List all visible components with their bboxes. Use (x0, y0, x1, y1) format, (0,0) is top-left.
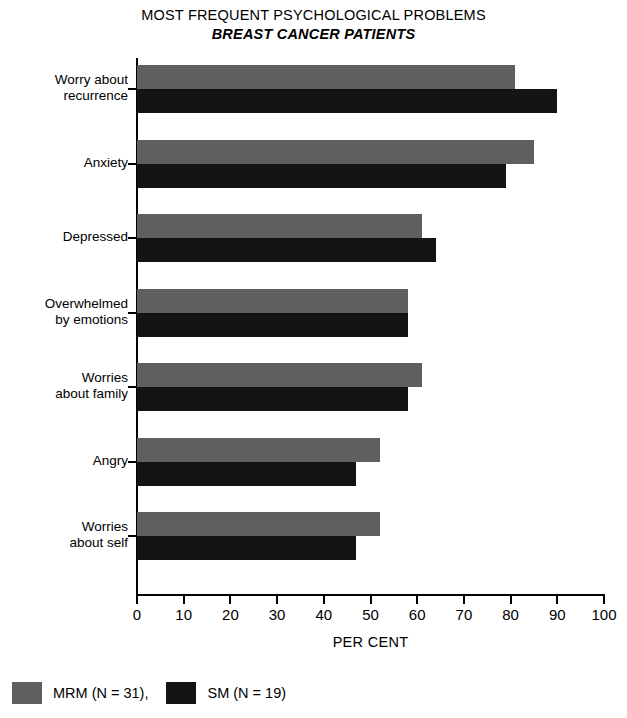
x-tick (136, 595, 138, 604)
y-axis-label: Worry aboutrecurrence (0, 72, 128, 104)
x-tick (603, 595, 605, 604)
bar-group (137, 438, 604, 486)
y-axis-label-line: Worries (0, 519, 128, 535)
y-tick (128, 312, 137, 314)
bar-sm (137, 164, 506, 188)
x-tick (323, 595, 325, 604)
y-axis-label-line: about self (0, 535, 128, 551)
y-tick (128, 461, 137, 463)
x-tick-label: 80 (491, 606, 531, 623)
x-tick (183, 595, 185, 604)
x-tick (463, 595, 465, 604)
chart-subtitle: BREAST CANCER PATIENTS (0, 25, 627, 44)
bar-mrm (137, 214, 422, 238)
legend-swatch-sm (166, 682, 196, 704)
bar-sm (137, 238, 436, 262)
bar-group (137, 65, 604, 113)
x-tick-label: 70 (444, 606, 484, 623)
bar-sm (137, 89, 557, 113)
bar-mrm (137, 512, 380, 536)
x-axis-title: PER CENT (137, 634, 604, 650)
y-axis-label-line: Anxiety (0, 155, 128, 171)
x-tick-label: 50 (351, 606, 391, 623)
x-tick (510, 595, 512, 604)
x-tick-label: 90 (537, 606, 577, 623)
x-tick-label: 30 (257, 606, 297, 623)
x-tick-label: 0 (117, 606, 157, 623)
bar-group (137, 214, 604, 262)
chart-title: MOST FREQUENT PSYCHOLOGICAL PROBLEMS (0, 6, 627, 25)
x-tick (276, 595, 278, 604)
y-tick (128, 386, 137, 388)
y-axis-label: Overwhelmedby emotions (0, 296, 128, 328)
bar-sm (137, 536, 356, 560)
x-tick-label: 100 (584, 606, 624, 623)
x-tick-label: 40 (304, 606, 344, 623)
y-axis-label-line: Worry about (0, 72, 128, 88)
y-axis-label-line: recurrence (0, 88, 128, 104)
bar-mrm (137, 289, 408, 313)
y-tick (128, 237, 137, 239)
bar-mrm (137, 65, 515, 89)
bar-group (137, 512, 604, 560)
y-axis-label: Anxiety (0, 155, 128, 171)
bar-mrm (137, 438, 380, 462)
chart-legend: MRM (N = 31),SM (N = 19) (12, 678, 304, 708)
x-tick (370, 595, 372, 604)
chart-title-block: MOST FREQUENT PSYCHOLOGICAL PROBLEMS BRE… (0, 6, 627, 44)
bar-sm (137, 313, 408, 337)
bar-mrm (137, 363, 422, 387)
y-axis-label-line: about family (0, 386, 128, 402)
legend-item: MRM (N = 31), (12, 682, 166, 704)
x-tick-label: 10 (164, 606, 204, 623)
legend-label: SM (N = 19) (207, 685, 286, 701)
legend-swatch-mrm (12, 682, 42, 704)
y-axis-label-line: Angry (0, 453, 128, 469)
bar-mrm (137, 140, 534, 164)
bar-group (137, 289, 604, 337)
y-tick (128, 163, 137, 165)
y-axis-label-line: by emotions (0, 312, 128, 328)
legend-item: SM (N = 19) (166, 682, 304, 704)
chart-figure: MOST FREQUENT PSYCHOLOGICAL PROBLEMS BRE… (0, 0, 627, 718)
y-axis-label: Worriesabout self (0, 519, 128, 551)
x-tick (229, 595, 231, 604)
y-axis-label-line: Depressed (0, 229, 128, 245)
bar-group (137, 140, 604, 188)
legend-label: MRM (N = 31), (53, 685, 148, 701)
bar-sm (137, 462, 356, 486)
y-axis-label-line: Overwhelmed (0, 296, 128, 312)
plot-area: Worry aboutrecurrenceAnxietyDepressedOve… (137, 58, 604, 594)
x-tick-label: 60 (397, 606, 437, 623)
x-tick (556, 595, 558, 604)
bar-group (137, 363, 604, 411)
x-tick-label: 20 (210, 606, 250, 623)
bar-sm (137, 387, 408, 411)
y-axis-label-line: Worries (0, 370, 128, 386)
x-tick (416, 595, 418, 604)
y-tick (128, 88, 137, 90)
y-axis-label: Depressed (0, 229, 128, 245)
y-axis-label: Angry (0, 453, 128, 469)
y-tick (128, 535, 137, 537)
y-axis-label: Worriesabout family (0, 370, 128, 402)
